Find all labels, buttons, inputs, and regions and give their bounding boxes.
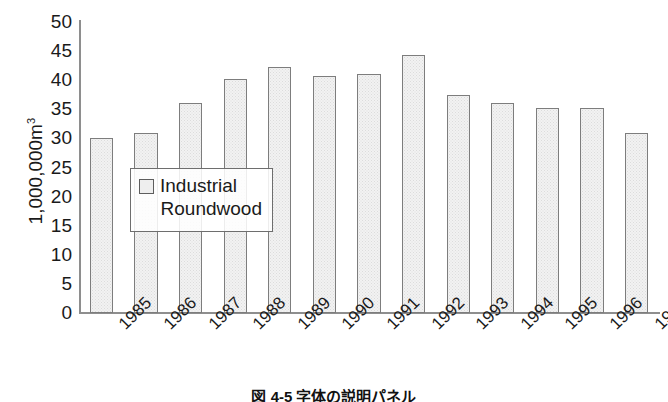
x-axis-tick-1985: 1985: [115, 320, 129, 334]
legend-label-line1: Industrial: [160, 175, 237, 197]
bar-1992: [402, 55, 425, 313]
x-axis-tick-1993: 1993: [472, 320, 486, 334]
bar-slot: [570, 22, 615, 313]
y-axis-tick-20: 20: [4, 186, 72, 208]
x-axis-tick-1992: 1992: [428, 320, 442, 334]
y-axis-tick-45: 45: [4, 40, 72, 62]
y-axis-tick-40: 40: [4, 69, 72, 91]
y-axis-tick-50: 50: [4, 11, 72, 33]
legend-entry-industrial-roundwood: Industrial: [139, 175, 264, 197]
x-axis-tick-1987: 1987: [205, 320, 219, 334]
x-axis-tick-1990: 1990: [338, 320, 352, 334]
x-axis-tick-1991: 1991: [383, 320, 397, 334]
bar-1997: [625, 133, 648, 313]
x-axis-tick-1989: 1989: [294, 320, 308, 334]
y-axis-tick-25: 25: [4, 157, 72, 179]
y-axis-tick-15: 15: [4, 215, 72, 237]
chart-legend: Industrial Roundwood: [130, 168, 273, 232]
bar-slot: [302, 22, 347, 313]
x-axis-tick-1995: 1995: [561, 320, 575, 334]
bar-1985: [90, 138, 113, 313]
figure-caption: 図 4-5 字体の説明パネル: [0, 388, 668, 402]
bar-slot: [525, 22, 570, 313]
bar-slot: [481, 22, 526, 313]
x-axis-tick-1997: 1997: [651, 320, 665, 334]
y-axis-tick-10: 10: [4, 244, 72, 266]
bar-1990: [313, 76, 336, 313]
legend-swatch-icon: [139, 179, 154, 194]
y-axis-tick-5: 5: [4, 273, 72, 295]
bar-1996: [580, 108, 603, 313]
bar-slot: [79, 22, 124, 313]
bar-slot: [614, 22, 659, 313]
x-axis-tick-1986: 1986: [160, 320, 174, 334]
x-axis-tick-1988: 1988: [249, 320, 263, 334]
bar-1995: [536, 108, 559, 313]
bar-slot: [347, 22, 392, 313]
bar-slot: [436, 22, 481, 313]
legend-label-line2: Roundwood: [139, 197, 264, 221]
x-axis-tick-1996: 1996: [606, 320, 620, 334]
x-axis-tick-labels: 1985198619871988198919901991199219931994…: [79, 314, 660, 374]
bar-1993: [447, 95, 470, 313]
y-axis-tick-30: 30: [4, 127, 72, 149]
chart-figure: 1,000,000m3 50454035302520151050 Industr…: [0, 0, 668, 402]
bar-1991: [357, 74, 380, 313]
bar-1994: [491, 103, 514, 313]
y-axis-tick-labels: 50454035302520151050: [0, 0, 78, 402]
y-axis-tick-35: 35: [4, 98, 72, 120]
x-axis-tick-1994: 1994: [517, 320, 531, 334]
bar-slot: [391, 22, 436, 313]
y-axis-tick-0: 0: [4, 302, 72, 324]
